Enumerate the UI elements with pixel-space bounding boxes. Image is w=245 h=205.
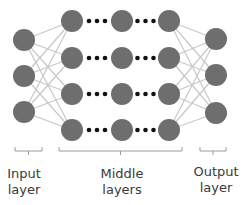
ellipsis-dot xyxy=(135,92,140,97)
middle-node xyxy=(111,119,133,141)
middle-label-line2: layers xyxy=(92,182,152,198)
ellipsis-dot xyxy=(151,56,156,61)
middle-node xyxy=(158,47,180,69)
ellipsis-dot xyxy=(103,56,108,61)
output-bracket xyxy=(200,147,226,155)
ellipsis-dot xyxy=(143,128,148,133)
layer-brackets xyxy=(15,147,226,155)
ellipsis-dot xyxy=(135,19,140,24)
middle-node xyxy=(158,119,180,141)
middle-node xyxy=(61,119,83,141)
middle-label-line1: Middle xyxy=(92,166,152,182)
ellipsis-dot xyxy=(135,128,140,133)
ellipsis-dot xyxy=(103,92,108,97)
input-node xyxy=(13,101,35,123)
middle-node xyxy=(111,10,133,32)
input-layer-label: Input layer xyxy=(2,166,46,198)
middle-node xyxy=(158,83,180,105)
nodes xyxy=(13,10,227,141)
input-label-line1: Input xyxy=(2,166,46,182)
middle-layers-label: Middle layers xyxy=(92,166,152,198)
ellipsis-dots xyxy=(87,19,156,133)
ellipsis-dot xyxy=(103,128,108,133)
middle-node xyxy=(158,10,180,32)
ellipsis-dot xyxy=(87,92,92,97)
input-node xyxy=(13,29,35,51)
ellipsis-dot xyxy=(151,92,156,97)
input-label-line2: layer xyxy=(2,182,46,198)
output-layer-label: Output layer xyxy=(190,164,242,196)
connections xyxy=(24,21,216,130)
middle-node xyxy=(61,10,83,32)
output-node xyxy=(205,64,227,86)
output-label-line2: layer xyxy=(190,180,242,196)
ellipsis-dot xyxy=(103,19,108,24)
ellipsis-dot xyxy=(135,56,140,61)
ellipsis-dot xyxy=(151,19,156,24)
ellipsis-dot xyxy=(95,128,100,133)
output-node xyxy=(205,28,227,50)
ellipsis-dot xyxy=(87,128,92,133)
middle-bracket xyxy=(59,147,182,155)
middle-node xyxy=(111,47,133,69)
middle-node xyxy=(61,47,83,69)
input-node xyxy=(13,65,35,87)
ellipsis-dot xyxy=(87,56,92,61)
middle-node xyxy=(111,83,133,105)
ellipsis-dot xyxy=(151,128,156,133)
output-node xyxy=(205,102,227,124)
ellipsis-dot xyxy=(95,19,100,24)
ellipsis-dot xyxy=(95,56,100,61)
output-label-line1: Output xyxy=(190,164,242,180)
ellipsis-dot xyxy=(143,92,148,97)
ellipsis-dot xyxy=(143,56,148,61)
ellipsis-dot xyxy=(95,92,100,97)
ellipsis-dot xyxy=(143,19,148,24)
ellipsis-dot xyxy=(87,19,92,24)
input-bracket xyxy=(15,147,42,155)
middle-node xyxy=(61,83,83,105)
